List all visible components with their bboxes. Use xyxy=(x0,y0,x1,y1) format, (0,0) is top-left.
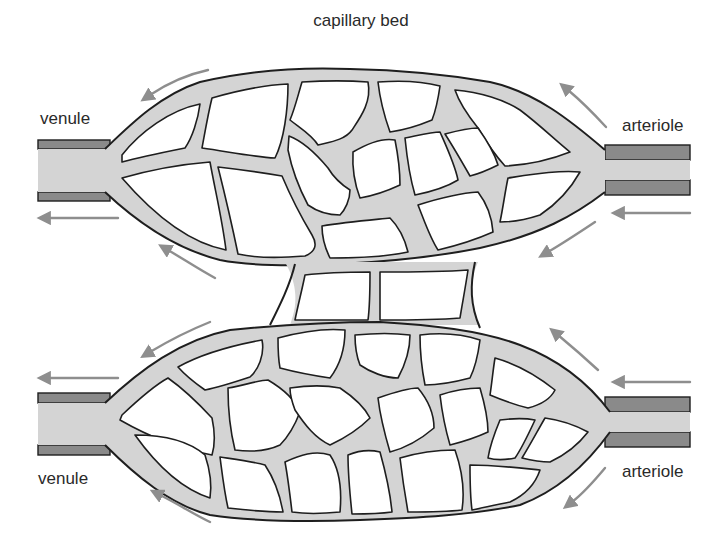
upper-arteriole-vessel xyxy=(598,145,690,195)
label-venule-top: venule xyxy=(40,109,90,128)
lower-arteriole-vessel xyxy=(598,397,690,447)
label-venule-bottom: venule xyxy=(38,469,88,488)
flow-arrow-lower-right-curve xyxy=(572,468,605,502)
flow-arrow-top-right-curve xyxy=(568,90,606,127)
flow-arrow-lower-top-right-curve xyxy=(558,335,598,370)
label-arteriole-bottom: arteriole xyxy=(622,462,683,481)
lower-capillary-bed xyxy=(38,322,690,522)
upper-capillary-bed xyxy=(38,68,690,278)
flow-arrow-right-lower-curve xyxy=(548,222,595,252)
connecting-capillaries xyxy=(270,262,480,328)
capillary-bed-diagram: capillary bed xyxy=(0,0,723,548)
label-arteriole-top: arteriole xyxy=(622,116,683,135)
diagram-title: capillary bed xyxy=(313,11,408,30)
